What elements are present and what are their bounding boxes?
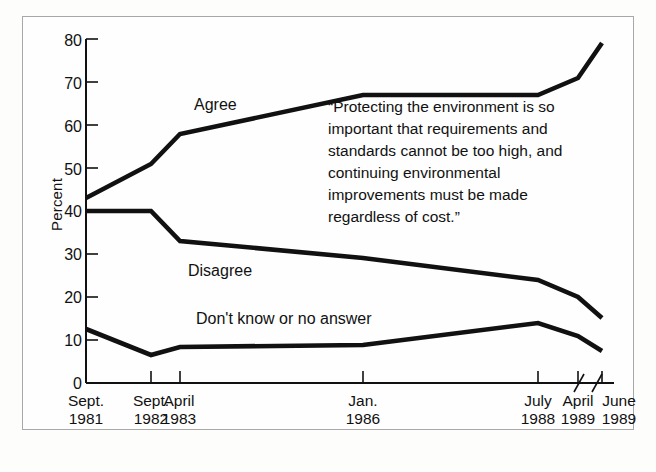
- x-tick-month: Jan.: [331, 392, 395, 410]
- x-tick-month: April: [148, 392, 210, 410]
- x-tick-month: Sept.: [52, 392, 120, 410]
- x-tick-label-april-1983: April 1983: [148, 392, 210, 429]
- x-tick-label-sept-1981: Sept. 1981: [52, 392, 120, 429]
- x-tick-month: June: [592, 392, 646, 410]
- x-tick-marks: [86, 371, 602, 383]
- series-label-agree: Agree: [194, 96, 237, 114]
- x-tick-label-june-1989: June 1989: [592, 392, 646, 429]
- series-label-disagree: Disagree: [188, 262, 252, 280]
- x-tick-year: 1983: [148, 410, 210, 428]
- quote-annotation: “Protecting the environment is so import…: [328, 96, 586, 228]
- series-label-dont-know: Don't know or no answer: [196, 310, 372, 328]
- x-tick-label-jan-1986: Jan. 1986: [331, 392, 395, 429]
- chart-figure: Percent 80 70 60 50 40 30 20 10 0: [0, 0, 656, 472]
- x-tick-year: 1981: [52, 410, 120, 428]
- x-tick-year: 1986: [331, 410, 395, 428]
- x-tick-year: 1989: [592, 410, 646, 428]
